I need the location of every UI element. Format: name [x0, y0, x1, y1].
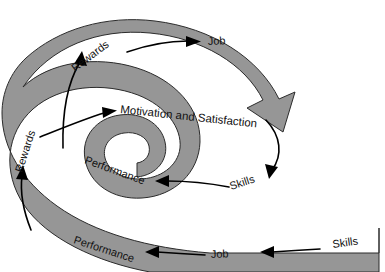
label-job-bottom: Job	[211, 247, 229, 260]
arrow-to-skills-middle	[265, 120, 279, 179]
label-skills-middle: Skills	[228, 172, 257, 191]
label-job-top: Job	[207, 34, 225, 47]
label-rewards-inner: Rewards	[12, 128, 37, 173]
spiral-diagram: Rewards Job Motivation and Satisfaction …	[0, 0, 385, 272]
label-skills-bottom: Skills	[332, 234, 360, 250]
spiral-band	[2, 20, 379, 272]
spiral-diagram-canvas: Rewards Job Motivation and Satisfaction …	[0, 0, 385, 272]
spiral-band-group	[2, 20, 379, 272]
arrow-to-job-top	[127, 36, 201, 52]
arrow-skills-to-performance	[155, 175, 229, 187]
